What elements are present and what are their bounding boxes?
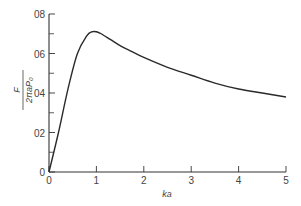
x-tick-label: 4 [236, 175, 242, 186]
data-curve [49, 31, 286, 172]
y-tick-label: 06 [34, 49, 46, 60]
axes: 012345002040608 [34, 9, 289, 186]
x-tick-label: 2 [141, 175, 147, 186]
x-tick-label: 1 [94, 175, 100, 186]
x-tick-label: 0 [46, 175, 52, 186]
y-tick-label: 08 [34, 9, 46, 20]
y-axis-label: F 2πaP₀ [8, 66, 38, 114]
x-tick-label: 5 [283, 175, 289, 186]
x-tick-label: 3 [188, 175, 194, 186]
y-axis-label-denominator: 2πaP₀ [24, 77, 34, 104]
chart: 012345002040608 ka [0, 0, 301, 206]
x-axis-label: ka [162, 189, 172, 199]
y-tick-label: 02 [34, 128, 46, 139]
y-tick-label: 0 [39, 167, 45, 178]
y-axis-label-numerator: F [12, 87, 22, 93]
